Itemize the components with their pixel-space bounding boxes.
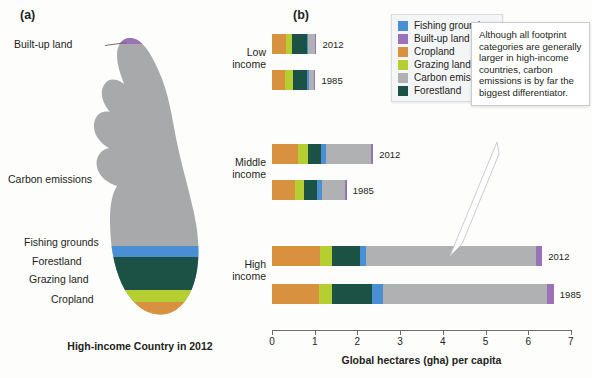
bar-year-label: 1985	[322, 75, 343, 86]
x-tick-mark	[443, 330, 444, 335]
bar-segment-built-up-land	[547, 284, 553, 304]
x-tick-label: 3	[397, 336, 403, 347]
legend-label: Built-up land	[414, 33, 470, 44]
bar-year-label: 2012	[548, 251, 569, 262]
category-label-line: Middle	[208, 156, 266, 168]
foot-cropland-region	[86, 302, 211, 320]
bar-segment-carbon-emissions	[383, 284, 547, 304]
chart-x-axis	[272, 330, 571, 331]
chart-x-axis-title: Global hectares (gha) per capita	[272, 354, 571, 366]
x-tick-label: 0	[269, 336, 275, 347]
category-label-line: High	[208, 258, 266, 270]
x-tick-label: 2	[355, 336, 361, 347]
legend-swatch-icon	[398, 47, 408, 57]
bar-segment-fishing-grounds	[372, 284, 383, 304]
bar-segment-carbon-emissions	[308, 34, 315, 54]
bar-segment-forestland	[332, 284, 373, 304]
bar-stack	[272, 144, 373, 164]
bar-low-income-2012[interactable]	[272, 34, 316, 54]
bar-segment-grazing-land	[285, 70, 294, 90]
bar-segment-cropland	[272, 180, 295, 200]
bar-year-label: 2012	[379, 149, 400, 160]
bar-year-label: 1985	[353, 185, 374, 196]
bar-stack	[272, 34, 316, 54]
chart-category-low: Lowincome	[208, 46, 266, 70]
bar-segment-grazing-land	[295, 180, 304, 200]
category-label-line: income	[208, 168, 266, 180]
foot-label-built-up-land: Built-up land	[14, 38, 72, 50]
x-tick-mark	[528, 330, 529, 335]
bar-middle-income-1985[interactable]	[272, 180, 347, 200]
bar-segment-cropland	[272, 284, 319, 304]
x-tick-label: 7	[568, 336, 574, 347]
legend-label: Forestland	[414, 85, 461, 96]
foot-label-grazing-land: Grazing land	[29, 273, 89, 285]
bar-segment-built-up-land	[371, 144, 373, 164]
bar-year-label: 1985	[560, 289, 581, 300]
bar-high-income-2012[interactable]	[272, 246, 542, 266]
legend-swatch-icon	[398, 34, 408, 44]
bar-year-label: 2012	[322, 39, 343, 50]
bar-segment-forestland	[292, 34, 307, 54]
bar-segment-forestland	[308, 144, 321, 164]
bar-segment-built-up-land	[536, 246, 542, 266]
callout-annotation: Although all footprint categories are ge…	[471, 22, 590, 106]
foot-label-cropland: Cropland	[51, 293, 94, 305]
x-tick-mark	[486, 330, 487, 335]
legend-swatch-icon	[398, 86, 408, 96]
bar-segment-carbon-emissions	[366, 246, 536, 266]
bar-segment-cropland	[272, 246, 320, 266]
chart-category-middle: Middleincome	[208, 156, 266, 180]
bar-stack	[272, 284, 554, 304]
category-label-line: Low	[208, 46, 266, 58]
bar-stack	[272, 180, 347, 200]
panel-b-bar-chart: (b) LowincomeMiddleincomeHighincome 2012…	[280, 0, 592, 378]
panel-a-letter: (a)	[20, 8, 35, 22]
x-tick-mark	[357, 330, 358, 335]
bar-segment-forestland	[293, 70, 307, 90]
x-tick-mark	[400, 330, 401, 335]
bar-middle-income-2012[interactable]	[272, 144, 373, 164]
category-label-line: income	[208, 58, 266, 70]
bar-low-income-1985[interactable]	[272, 70, 316, 90]
bar-segment-cropland	[272, 70, 285, 90]
bar-segment-forestland	[304, 180, 317, 200]
bar-stack	[272, 70, 315, 90]
bar-segment-built-up-land	[345, 180, 347, 200]
bar-segment-built-up-land	[315, 34, 316, 54]
bar-high-income-1985[interactable]	[272, 284, 554, 304]
x-tick-mark	[315, 330, 316, 335]
x-tick-label: 4	[440, 336, 446, 347]
x-tick-label: 1	[312, 336, 318, 347]
x-tick-label: 6	[525, 336, 531, 347]
bar-segment-grazing-land	[319, 284, 332, 304]
bar-segment-cropland	[272, 144, 298, 164]
foot-label-forestland: Forestland	[32, 255, 82, 267]
foot-svg	[86, 30, 211, 320]
foot-forestland-region	[86, 257, 211, 290]
legend-swatch-icon	[398, 21, 408, 31]
x-tick-mark	[571, 330, 572, 335]
legend-label: Cropland	[414, 46, 455, 57]
legend-swatch-icon	[398, 60, 408, 70]
foot-label-fishing-grounds: Fishing grounds	[24, 236, 99, 248]
bar-segment-cropland	[272, 34, 286, 54]
x-tick-label: 5	[483, 336, 489, 347]
bar-segment-carbon-emissions	[326, 144, 371, 164]
bar-segment-grazing-land	[320, 246, 332, 266]
legend-swatch-icon	[398, 73, 408, 83]
x-tick-mark	[272, 330, 273, 335]
category-label-line: income	[208, 270, 266, 282]
bar-segment-forestland	[332, 246, 359, 266]
foot-grazing-region	[86, 290, 211, 302]
footprint-illustration	[86, 30, 211, 320]
bar-segment-built-up-land	[314, 70, 315, 90]
bar-segment-grazing-land	[298, 144, 307, 164]
foot-label-carbon-emissions: Carbon emissions	[8, 173, 92, 185]
bar-stack	[272, 246, 542, 266]
bar-segment-carbon-emissions	[322, 180, 345, 200]
legend-label: Grazing land	[414, 59, 471, 70]
chart-category-high: Highincome	[208, 258, 266, 282]
panel-a-caption: High-income Country in 2012	[0, 340, 280, 352]
foot-fishing-region	[86, 246, 211, 257]
